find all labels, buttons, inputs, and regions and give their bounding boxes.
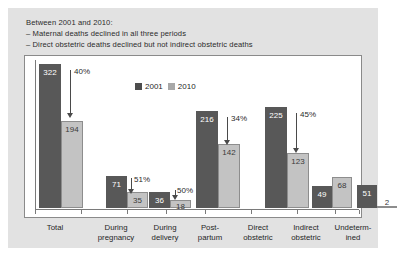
legend-label-2001: 2001 <box>145 82 163 91</box>
decline-arrow-head-icon <box>172 195 178 200</box>
bar-value-indirect-2010: 68 <box>332 181 352 190</box>
notes-line-1: Between 2001 and 2010: <box>26 17 366 28</box>
decline-pct-postpartum: 34% <box>231 114 247 123</box>
decline-arrow-head-icon <box>293 148 299 153</box>
x-axis-label-during-pregnancy: During pregnancy <box>90 223 142 242</box>
slide-canvas: Between 2001 and 2010: – Maternal deaths… <box>8 8 378 248</box>
bar-value-delivery-2010: 18 <box>170 202 191 211</box>
bar-value-direct-2001: 225 <box>265 111 287 120</box>
x-axis-label-indirect-obstetric: Indirect obstetric <box>282 223 330 242</box>
bar-value-indirect-2001: 49 <box>312 190 332 199</box>
x-axis-label-undetermined: Undeterm- ined <box>328 223 378 242</box>
bar-total-2001[interactable] <box>39 64 61 208</box>
x-axis-label-during-delivery: During delivery <box>142 223 188 242</box>
x-axis-label-total: Total <box>18 223 92 233</box>
decline-pct-total: 40% <box>74 67 90 76</box>
notes-line-2: – Maternal deaths declined in all three … <box>26 28 366 39</box>
decline-pct-pregnancy: 51% <box>134 175 150 184</box>
legend-swatch-icon <box>168 83 175 90</box>
bar-value-postpartum-2010: 142 <box>218 148 240 157</box>
bar-value-pregnancy-2010: 35 <box>127 196 148 205</box>
x-axis-line <box>35 209 359 210</box>
decline-arrow-total <box>70 70 71 114</box>
x-axis-tick <box>335 210 336 214</box>
bar-value-postpartum-2001: 216 <box>196 115 218 124</box>
x-axis-tick <box>297 210 298 214</box>
bar-value-delivery-2001: 36 <box>149 196 170 205</box>
decline-arrow-direct <box>296 113 297 149</box>
legend-swatch-icon <box>135 83 142 90</box>
chart-plot-area: 2001 2010 322 194 40% 71 35 51% 36 18 <box>24 55 362 218</box>
chart-legend: 2001 2010 <box>135 82 196 91</box>
bar-value-total-2001: 322 <box>39 68 61 77</box>
legend-label-2010: 2010 <box>178 82 196 91</box>
bar-value-total-2010: 194 <box>61 125 83 134</box>
decline-arrow-head-icon <box>224 140 230 145</box>
x-axis-tick <box>166 210 167 214</box>
bar-total-2010[interactable] <box>61 121 83 208</box>
x-axis-tick <box>251 210 252 214</box>
bar-value-direct-2010: 123 <box>287 157 309 166</box>
x-axis-label-post-partum: Post- partum <box>188 223 232 242</box>
x-axis-tick <box>81 210 82 214</box>
x-axis-tick <box>35 210 36 214</box>
x-axis-label-direct-obstetric: Direct obstetric <box>234 223 282 242</box>
bar-value-undetermined-2010: 2 <box>377 198 397 207</box>
decline-pct-direct: 45% <box>300 110 316 119</box>
bar-direct-2001[interactable] <box>265 107 287 208</box>
notes-line-3: – Direct obstetric deaths declined but n… <box>26 39 366 50</box>
x-axis-tick <box>359 210 360 214</box>
decline-arrow-postpartum <box>227 117 228 141</box>
bar-value-undetermined-2001: 51 <box>357 189 377 198</box>
decline-arrow-head-icon <box>128 189 134 194</box>
legend-item-2001: 2001 <box>135 82 163 91</box>
decline-pct-delivery: 50% <box>177 186 193 195</box>
decline-arrow-head-icon <box>67 113 73 118</box>
bar-value-pregnancy-2001: 71 <box>106 180 127 189</box>
bar-postpartum-2001[interactable] <box>196 111 218 208</box>
notes-block: Between 2001 and 2010: – Maternal deaths… <box>26 17 366 51</box>
y-axis-line <box>35 60 36 210</box>
legend-item-2010: 2010 <box>168 82 196 91</box>
x-axis-tick <box>127 210 128 214</box>
x-axis-tick <box>205 210 206 214</box>
